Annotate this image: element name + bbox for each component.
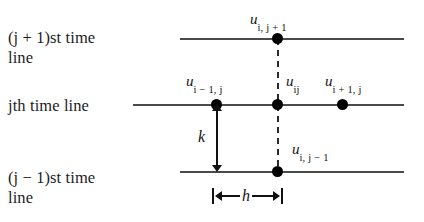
node-label-subscript: i + 1, j [333,84,362,95]
finite-difference-stencil-figure: (j + 1)st time line jth time line (j − 1… [0,0,424,222]
node-label-subscript: i, j + 1 [258,22,287,33]
node-u-i-j-plus-1 [272,33,283,44]
node-label-u-ij: uij [286,74,300,93]
vertical-spacing-arrow-k [212,104,223,172]
arrow-right-icon [273,191,280,201]
node-label-base: u [250,11,258,27]
node-u-i-plus-1-j [337,99,348,110]
measure-tick-right [281,188,283,204]
spacing-label-k: k [198,128,205,146]
node-label-base: u [292,141,300,157]
time-line-label-j: jth time line [8,96,89,116]
measure-tick-left [212,188,214,204]
node-label-u-i-plus-1-j: ui + 1, j [325,74,362,93]
node-label-u-i-minus-1-j: ui − 1, j [186,74,223,93]
time-line-label-j-plus-1: (j + 1)st time line [8,28,95,68]
time-line-j [133,104,404,106]
arrow-left-icon [215,191,222,201]
time-line-j-plus-1 [180,38,404,40]
node-label-u-i-j-minus-1: ui, j − 1 [292,142,329,161]
node-label-base: u [186,73,194,89]
node-label-subscript: i − 1, j [194,84,223,95]
node-u-i-j-minus-1 [272,166,283,177]
node-label-u-i-j-plus-1: ui, j + 1 [250,12,287,31]
arrow-shaft [216,109,218,167]
arrow-down-icon [212,165,222,172]
spacing-label-h: h [240,187,252,205]
node-label-base: u [286,73,294,89]
node-u-ij [272,99,283,110]
time-line-label-j-minus-1: (j − 1)st time line [8,168,95,208]
node-label-subscript: ij [294,84,300,95]
node-label-subscript: i, j − 1 [300,152,329,163]
node-label-base: u [325,73,333,89]
